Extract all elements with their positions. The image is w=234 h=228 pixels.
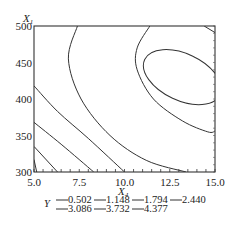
legend: Y 0.5021.1481.7942.4403.0863.7324.377 [44,194,206,214]
x-axis-ticks: 5.07.510.012.515.0 [27,26,225,188]
x-tick-label: 15.0 [205,176,225,188]
legend-entry-label: 2.440 [182,194,206,205]
legend-entry-label: 4.377 [144,203,168,214]
plot-frame [34,26,215,172]
y-tick-label: 300 [16,166,33,178]
contour-ellipse-4_377 [135,38,230,116]
contour-line-1_794 [34,122,94,172]
contour-line-1_148 [34,146,58,172]
contour-line-4_377 [204,26,215,33]
contour-line-3_732 [135,26,215,132]
y-axis-ticks: 300350400450500 [16,20,33,178]
x-tick-label: 12.5 [160,176,180,188]
y-tick-label: 350 [16,130,33,142]
legend-entry-label: 3.086 [68,203,92,214]
y-tick-label: 450 [16,57,33,69]
y-axis-title: X1 [22,12,33,26]
contour-lines [34,26,230,172]
y-tick-label: 400 [16,93,33,105]
contour-chart: 5.07.510.012.515.0 300350400450500 X1 X4… [0,0,234,228]
x-tick-label: 7.5 [72,176,86,188]
legend-response-label: Y [44,198,51,209]
legend-entry-label: 3.732 [106,203,130,214]
contour-line-3_086 [68,26,186,172]
